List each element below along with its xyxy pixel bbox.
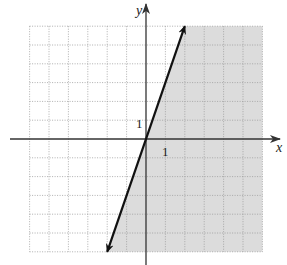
y-axis-label: y: [134, 3, 143, 18]
y-tick-label-1: 1: [136, 116, 143, 131]
x-tick-label-1: 1: [162, 144, 169, 159]
inequality-graph: x y 1 1: [0, 0, 287, 265]
x-axis-label: x: [275, 140, 283, 155]
